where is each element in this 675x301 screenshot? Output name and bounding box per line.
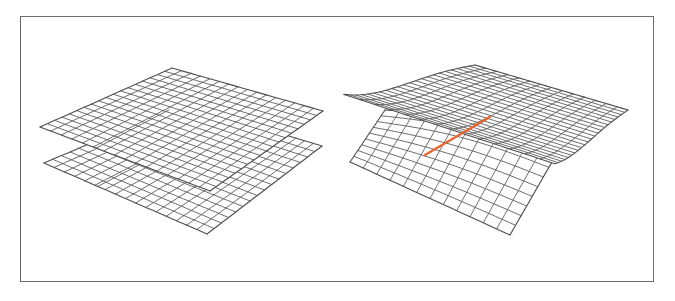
panel-parallel-sheets — [40, 68, 323, 234]
panel-twisted-surface — [344, 65, 628, 235]
figure-canvas — [0, 0, 675, 301]
